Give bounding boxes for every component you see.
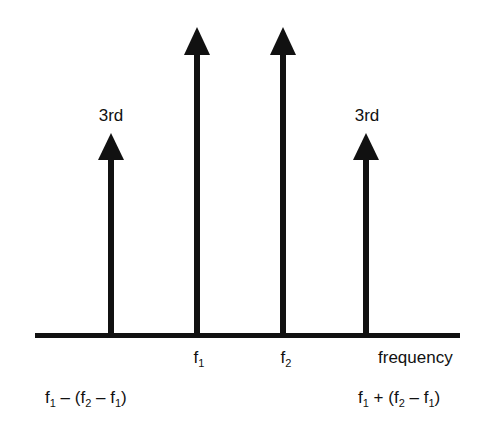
axis-label-frequency: frequency	[378, 349, 453, 366]
formula-part: – (f	[56, 388, 85, 407]
arrow-f2	[270, 27, 296, 335]
arrow-im3-lower	[98, 133, 124, 335]
arrow-shaft	[108, 158, 114, 335]
label-f1: f1	[194, 349, 205, 366]
arrow-head-icon	[353, 133, 379, 160]
arrow-shaft	[194, 52, 200, 335]
formula-part: )	[121, 388, 127, 407]
formula-part: )	[435, 388, 441, 407]
label-f2-sub: 2	[285, 357, 291, 369]
formula-part: + (f	[369, 388, 399, 407]
arrow-head-icon	[270, 27, 296, 55]
formula-part: – f	[405, 388, 429, 407]
formula-upper-im3: f1 + (f2 – f1)	[358, 389, 440, 406]
arrow-f1	[184, 27, 210, 335]
arrow-head-icon	[98, 133, 124, 160]
formula-part: – f	[91, 388, 115, 407]
arrow-head-icon	[184, 27, 210, 55]
label-f2: f2	[281, 349, 292, 366]
arrow-shaft	[363, 158, 369, 335]
intermodulation-spectrum-diagram: 3rd 3rd f1 f2 frequency f1 – (f2 – f1) f…	[0, 0, 491, 430]
frequency-axis-line	[35, 333, 460, 338]
arrow-shaft	[280, 52, 286, 335]
label-3rd-lower: 3rd	[99, 107, 124, 124]
label-f1-sub: 1	[198, 357, 204, 369]
formula-lower-im3: f1 – (f2 – f1)	[45, 389, 127, 406]
label-3rd-upper: 3rd	[355, 107, 380, 124]
arrow-im3-upper	[353, 133, 379, 335]
